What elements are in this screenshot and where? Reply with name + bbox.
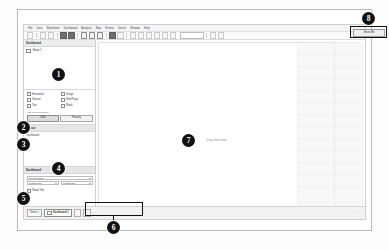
pause-refresh-icon[interactable] xyxy=(81,32,87,38)
menu-item-file[interactable]: File xyxy=(28,27,33,30)
swap-rows-columns-icon[interactable] xyxy=(130,32,136,38)
size-preset-value: Size Desktop xyxy=(29,177,44,180)
sheet-label: Sheet 1 xyxy=(33,49,42,52)
dashboard-size-controls[interactable]: Size Desktop Width 1000 Height 800 xyxy=(24,174,95,187)
menu-item-server[interactable]: Server xyxy=(118,27,126,30)
toolbar-separator xyxy=(206,33,207,38)
layout-pane-title: Layout xyxy=(24,125,95,132)
object-label: Horizontal xyxy=(32,93,44,96)
size-height-value: Height 800 xyxy=(63,182,75,185)
new-worksheet-icon[interactable] xyxy=(74,209,82,217)
show-me-row[interactable] xyxy=(298,103,362,115)
object-text[interactable]: Text xyxy=(27,104,59,108)
screenshot-root: File Data Worksheet Dashboard Analysis M… xyxy=(0,0,389,250)
show-me-row[interactable] xyxy=(298,43,362,55)
menu-item-dashboard[interactable]: Dashboard xyxy=(64,27,78,30)
show-me-panel[interactable] xyxy=(297,42,363,207)
annotation-badge-7: 7 xyxy=(182,134,195,147)
annotation-badge-4: 4 xyxy=(52,162,65,175)
size-height-field[interactable]: Height 800 xyxy=(61,181,93,185)
new-dashboard-icon[interactable] xyxy=(83,209,91,217)
refresh-icon[interactable] xyxy=(89,32,95,38)
undo-icon[interactable] xyxy=(109,32,115,38)
chevron-down-icon xyxy=(89,183,91,184)
menu-bar[interactable]: File Data Worksheet Dashboard Analysis M… xyxy=(24,25,365,32)
blank-object-icon[interactable] xyxy=(61,104,65,108)
presentation-mode-icon[interactable] xyxy=(218,32,224,38)
show-me-row[interactable] xyxy=(298,91,362,103)
save-icon[interactable] xyxy=(60,32,66,38)
object-web-page[interactable]: Web Page xyxy=(61,98,93,102)
worksheet-icon xyxy=(26,49,31,54)
sort-ascending-icon[interactable] xyxy=(138,32,144,38)
dashboard-pane-title: Dashboard xyxy=(24,40,95,47)
show-me-row[interactable] xyxy=(298,79,362,91)
image-object-icon[interactable] xyxy=(61,92,65,96)
annotation-badge-5: 5 xyxy=(17,192,30,205)
show-me-row[interactable] xyxy=(298,127,362,139)
floating-button[interactable]: Floating xyxy=(60,115,92,122)
vertical-container-icon[interactable] xyxy=(27,98,31,102)
tableau-application-window: File Data Worksheet Dashboard Analysis M… xyxy=(23,24,366,220)
tab-sheet-1[interactable]: Sheet 1 xyxy=(27,209,42,217)
object-blank[interactable]: Blank xyxy=(61,104,93,108)
size-preset-dropdown[interactable]: Size Desktop xyxy=(27,176,93,180)
show-me-row[interactable] xyxy=(298,67,362,79)
show-me-row[interactable] xyxy=(298,115,362,127)
object-label: Image xyxy=(66,93,73,96)
sheet-tab-bar[interactable]: Sheet 1 Dashboard 1 · · · · · xyxy=(24,206,365,219)
show-title-label: Show Title xyxy=(32,189,44,192)
menu-item-worksheet[interactable]: Worksheet xyxy=(46,27,59,30)
show-labels-icon[interactable] xyxy=(170,32,176,38)
forward-arrow-icon[interactable] xyxy=(48,32,54,38)
menu-item-data[interactable]: Data xyxy=(37,27,43,30)
back-arrow-icon[interactable] xyxy=(40,32,46,38)
layout-subtitle: Dashboard xyxy=(27,134,40,137)
toolbar[interactable] xyxy=(24,32,365,40)
object-label: Text xyxy=(32,104,37,107)
tab-label: Dashboard 1 xyxy=(53,210,69,216)
tiled-button[interactable]: Tiled xyxy=(27,115,59,122)
clear-sheet-icon[interactable] xyxy=(97,32,103,38)
menu-item-map[interactable]: Map xyxy=(96,27,101,30)
show-title-checkbox[interactable]: Show Title xyxy=(24,187,95,195)
object-label: Web Page xyxy=(66,98,78,101)
web-page-object-icon[interactable] xyxy=(61,98,65,102)
annotation-badge-1: 1 xyxy=(52,68,65,81)
menu-item-window[interactable]: Window xyxy=(130,27,140,30)
chevron-down-icon xyxy=(55,183,57,184)
fit-dropdown[interactable] xyxy=(180,32,204,39)
tab-dashboard-1[interactable]: Dashboard 1 xyxy=(44,209,72,217)
object-vertical[interactable]: Vertical xyxy=(27,98,59,102)
show-me-row[interactable] xyxy=(298,139,362,151)
list-item[interactable]: Sheet 1 xyxy=(26,49,93,54)
object-image[interactable]: Image xyxy=(61,92,93,96)
show-me-row[interactable] xyxy=(298,55,362,67)
show-me-row[interactable] xyxy=(298,151,362,163)
status-dots: · · · · · xyxy=(348,212,361,215)
dashboard-canvas[interactable]: Drop sheet here xyxy=(96,40,365,220)
menu-item-help[interactable]: Help xyxy=(144,27,150,30)
objects-checkbox-grid[interactable]: Horizontal Image Vertical Web Page Text xyxy=(24,89,95,110)
horizontal-container-icon[interactable] xyxy=(27,92,31,96)
redo-icon[interactable] xyxy=(117,32,123,38)
menu-item-analysis[interactable]: Analysis xyxy=(81,27,91,30)
show-me-row[interactable] xyxy=(298,175,362,187)
text-object-icon[interactable] xyxy=(27,104,31,108)
object-horizontal[interactable]: Horizontal xyxy=(27,92,59,96)
toolbar-separator xyxy=(77,33,78,38)
fix-axes-icon[interactable] xyxy=(210,32,216,38)
tableau-logo-icon[interactable] xyxy=(27,32,33,38)
show-me-row[interactable] xyxy=(298,163,362,175)
dashboard-tab-icon xyxy=(47,211,52,216)
menu-item-format[interactable]: Format xyxy=(105,27,114,30)
highlight-icon[interactable] xyxy=(154,32,160,38)
group-members-icon[interactable] xyxy=(162,32,168,38)
show-me-button[interactable]: Show Me xyxy=(353,29,385,37)
toolbar-separator xyxy=(126,33,127,38)
tiled-floating-buttons[interactable]: Tiled Floating xyxy=(24,115,95,124)
size-width-field[interactable]: Width 1000 xyxy=(27,181,59,185)
new-data-source-icon[interactable] xyxy=(68,32,74,38)
toolbar-separator xyxy=(106,33,107,38)
sort-descending-icon[interactable] xyxy=(146,32,152,38)
